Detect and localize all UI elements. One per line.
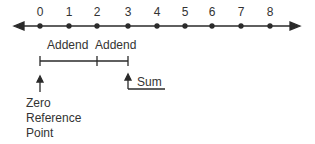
reference-line-1: Zero [26, 96, 51, 110]
tick-label-4: 4 [154, 5, 161, 19]
up-arrow-icon [125, 74, 131, 80]
addend-label-2: Addend [95, 38, 136, 52]
point-6 [210, 24, 214, 28]
point-5 [183, 24, 187, 28]
sum-label: Sum [137, 75, 162, 89]
tick-label-5: 5 [182, 5, 189, 19]
point-3 [126, 24, 130, 28]
point-2 [95, 24, 99, 28]
point-0 [38, 24, 42, 28]
reference-line-3: Point [26, 126, 53, 140]
tick-label-3: 3 [125, 5, 132, 19]
point-1 [67, 24, 71, 28]
tick-label-8: 8 [267, 5, 274, 19]
tick-label-0: 0 [37, 5, 44, 19]
point-7 [239, 24, 243, 28]
point-8 [268, 24, 272, 28]
addend-label-1: Addend [47, 38, 88, 52]
up-arrow-icon [37, 76, 43, 82]
point-4 [155, 24, 159, 28]
tick-label-6: 6 [209, 5, 216, 19]
left-arrow-icon [14, 22, 24, 30]
right-arrow-icon [290, 22, 300, 30]
tick-label-1: 1 [66, 5, 73, 19]
tick-label-7: 7 [238, 5, 245, 19]
tick-label-2: 2 [94, 5, 101, 19]
reference-line-2: Reference [26, 111, 81, 125]
addend-bracket [40, 56, 128, 66]
